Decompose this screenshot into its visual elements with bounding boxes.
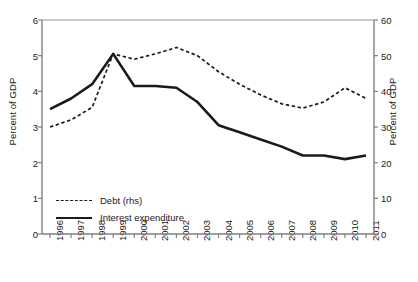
series-line-interest-expenditure [50,54,366,159]
legend: Debt (rhs)Interest expenditure [56,192,184,226]
chart-container: Percent of GDP Percent of GDP 0123456 01… [0,0,418,282]
legend-swatch-dashed [56,200,92,201]
legend-item: Debt (rhs) [56,192,184,209]
plot-area [0,0,418,282]
data-series [50,47,366,159]
legend-item: Interest expenditure [56,209,184,226]
legend-label: Debt (rhs) [100,195,142,206]
legend-label: Interest expenditure [100,212,184,223]
legend-swatch-solid [56,217,92,219]
